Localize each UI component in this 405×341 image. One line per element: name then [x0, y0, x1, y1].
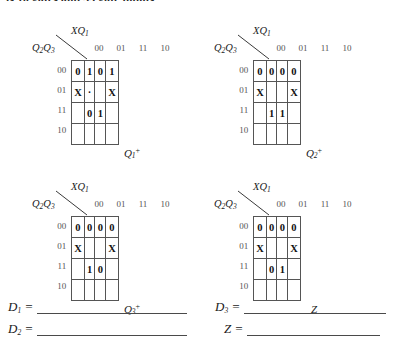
kmap-cell[interactable]: X	[254, 238, 266, 259]
kmap-row-headers: 00 01 11 10	[236, 60, 253, 145]
kmap-cell[interactable]: X	[254, 82, 266, 103]
kmap-col-head: 00	[270, 43, 292, 53]
kmap-body: 00 01 11 10 0 0 0 0 X X 0 1	[236, 216, 301, 301]
kmap-cell[interactable]	[95, 124, 106, 145]
kmap-cell[interactable]	[106, 103, 119, 124]
kmap-cell[interactable]: 1	[106, 61, 119, 82]
kmap-cell[interactable]	[84, 280, 95, 301]
kmap-cell[interactable]: X	[288, 82, 301, 103]
kmap-row: 0 1	[72, 103, 119, 124]
kmap-cell[interactable]: 1	[277, 259, 288, 280]
kmap-cell[interactable]: 1	[84, 61, 95, 82]
kmap-cell[interactable]: X	[72, 82, 84, 103]
kmap-row: 0 1 0 1	[72, 61, 119, 82]
kmap-cell[interactable]: 0	[266, 217, 277, 238]
kmap-row-head: 01	[54, 236, 71, 256]
kmap-column-headers: 00 01 11 10	[270, 199, 358, 209]
kmap-cell[interactable]	[72, 280, 84, 301]
kmap-col-head: 11	[132, 43, 154, 53]
kmap-left-axis-label: Q2Q3	[32, 42, 55, 55]
kmap-cell[interactable]: 0	[266, 259, 277, 280]
kmap-row	[72, 280, 119, 301]
kmap-row-head: 01	[54, 80, 71, 100]
kmap-cell[interactable]	[266, 280, 277, 301]
kmap-cell[interactable]	[266, 238, 277, 259]
kmap-cell[interactable]: X	[106, 238, 119, 259]
kmap-cell[interactable]	[72, 103, 84, 124]
kmap-cell[interactable]	[277, 124, 288, 145]
kmap-cell[interactable]	[84, 238, 95, 259]
answer-label-z: Z =	[224, 322, 247, 336]
answer-blank-d1[interactable]	[37, 301, 187, 314]
kmap-cell[interactable]: 0	[95, 217, 106, 238]
kmap-row-headers: 00 01 11 10	[236, 216, 253, 301]
kmap-body: 00 01 11 10 0 0 0 0 X X 1 1	[236, 60, 301, 145]
kmap-cell[interactable]: 0	[288, 61, 301, 82]
kmap-cell[interactable]: 1	[266, 103, 277, 124]
kmap-cell[interactable]: 0	[95, 61, 106, 82]
kmap-cell[interactable]: 0	[84, 217, 95, 238]
kmap-cell[interactable]	[84, 124, 95, 145]
kmap-row: 0 0 0 0	[72, 217, 119, 238]
kmap-column-headers: 00 01 11 10	[270, 43, 358, 53]
kmap-cell[interactable]	[277, 82, 288, 103]
kmap-cell[interactable]	[95, 82, 106, 103]
kmap-col-head: 10	[154, 43, 176, 53]
kmap-cell[interactable]	[288, 280, 301, 301]
kmap-row-head: 10	[236, 120, 253, 140]
kmap-cell[interactable]: 0	[288, 217, 301, 238]
kmap-cell[interactable]	[254, 124, 266, 145]
kmap-cell[interactable]	[254, 103, 266, 124]
kmap-column-headers: 00 01 11 10	[88, 43, 176, 53]
kmap-top-axis-label: XQ1	[71, 25, 89, 38]
kmap-cell[interactable]	[277, 238, 288, 259]
kmap-cell[interactable]: 0	[277, 217, 288, 238]
kmap-cell[interactable]	[106, 259, 119, 280]
kmap-cell[interactable]	[95, 280, 106, 301]
kmap-cell[interactable]	[277, 280, 288, 301]
kmap-cell[interactable]: 0	[95, 259, 106, 280]
kmap-col-head: 01	[110, 199, 132, 209]
answer-blank-d2[interactable]	[37, 323, 187, 336]
kmap-row-head: 10	[236, 276, 253, 296]
kmap-cell[interactable]	[254, 280, 266, 301]
cut-off-text-line: is 10 gates and 33 gate inputs.	[6, 0, 158, 1]
kmap-cell[interactable]: ·	[84, 82, 95, 103]
answer-blank-d3[interactable]	[244, 301, 386, 314]
kmap-cell[interactable]	[254, 259, 266, 280]
kmap-cell[interactable]	[72, 259, 84, 280]
kmap-row: 0 0 0 0	[254, 61, 301, 82]
kmap-cell[interactable]: 0	[277, 61, 288, 82]
kmap-cell[interactable]	[106, 124, 119, 145]
kmap-cell[interactable]: 1	[95, 103, 106, 124]
kmap-cell[interactable]	[288, 103, 301, 124]
kmap-cell[interactable]: 0	[254, 61, 266, 82]
kmap-cell[interactable]	[288, 124, 301, 145]
kmap-cell[interactable]	[288, 259, 301, 280]
kmap-cell[interactable]: 0	[106, 217, 119, 238]
kmap-col-head: 10	[336, 199, 358, 209]
answer-line-z: Z =	[224, 322, 380, 336]
kmap-cell[interactable]: 1	[277, 103, 288, 124]
kmap-cell[interactable]: X	[288, 238, 301, 259]
answer-blank-z[interactable]	[247, 323, 380, 336]
kmap-cell[interactable]: X	[106, 82, 119, 103]
kmap-cell[interactable]: 1	[84, 259, 95, 280]
kmap-cell[interactable]: 0	[84, 103, 95, 124]
kmap-cell[interactable]: 0	[72, 61, 84, 82]
kmap-grid: 0 0 0 0 X X 1 1	[253, 60, 301, 145]
kmap-cell[interactable]	[95, 238, 106, 259]
kmap-cell[interactable]	[72, 124, 84, 145]
kmap-cell[interactable]	[266, 82, 277, 103]
kmap-cell[interactable]: X	[72, 238, 84, 259]
kmap-top-axis-label: XQ1	[253, 25, 271, 38]
kmap-cell[interactable]	[106, 280, 119, 301]
kmap-cell[interactable]	[266, 124, 277, 145]
kmap-cell[interactable]: 0	[266, 61, 277, 82]
kmap-col-head: 11	[132, 199, 154, 209]
kmap-cell[interactable]: 0	[72, 217, 84, 238]
kmap-cell[interactable]: 0	[254, 217, 266, 238]
kmap-row-headers: 00 01 11 10	[54, 216, 71, 301]
answer-label-d1: D1 =	[8, 300, 37, 314]
kmap-row: X X	[254, 238, 301, 259]
